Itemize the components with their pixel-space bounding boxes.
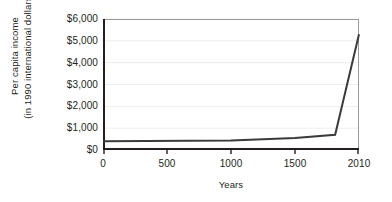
gridlines bbox=[103, 19, 359, 128]
y-axis-tick-label: $1,000 bbox=[52, 123, 98, 133]
x-axis-tick-label: 500 bbox=[137, 158, 197, 169]
x-axis-tick-label: 1500 bbox=[265, 158, 325, 169]
plot-canvas bbox=[103, 19, 359, 150]
x-axis-title: Years bbox=[103, 179, 359, 190]
x-axis-tick-label: 0 bbox=[73, 158, 133, 169]
y-axis-tick-label: $6,000 bbox=[52, 14, 98, 24]
y-axis-tick-label: $2,000 bbox=[52, 101, 98, 111]
y-axis-title: Per capita income (in 1990 international… bbox=[9, 0, 43, 126]
x-axis-tick-labels: 0500100015002010 bbox=[0, 158, 392, 172]
y-axis-tick-label: $0 bbox=[52, 145, 98, 155]
chart-figure: Per capita income (in 1990 international… bbox=[0, 0, 392, 202]
y-axis-title-line2: (in 1990 international dollars) bbox=[22, 0, 35, 126]
x-axis-tick-label: 2010 bbox=[329, 158, 389, 169]
y-axis-tick-label: $5,000 bbox=[52, 36, 98, 46]
data-line bbox=[103, 34, 359, 141]
y-axis-tick-label: $4,000 bbox=[52, 58, 98, 68]
y-axis-tick-label: $3,000 bbox=[52, 80, 98, 90]
x-axis-tick-label: 1000 bbox=[201, 158, 261, 169]
y-axis-title-line1: Per capita income bbox=[9, 0, 22, 126]
plot-area bbox=[103, 19, 359, 150]
data-line-series bbox=[103, 34, 359, 141]
